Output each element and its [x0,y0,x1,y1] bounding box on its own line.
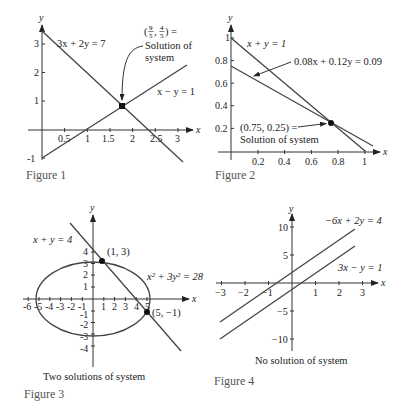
x-tick-label: 2 [112,301,117,312]
y-tick-label: 0.4 [215,100,228,111]
x-tick-label: -4 [45,301,53,312]
figure-caption: Figure 4 [214,374,254,388]
equation-label-1: −6x + 2y = 4 [325,215,383,226]
figure-caption: Figure 3 [24,387,64,401]
annotation-text: system [145,52,174,63]
y-tick-label: 1 [225,32,230,43]
y-tick-label: -2 [80,319,88,330]
y-tick-label: 4 [83,246,88,257]
y-axis-label: y [227,12,233,23]
x-axis-label: x [191,293,197,304]
y-tick-label: 3 [34,38,39,49]
equation-label-1: x + y = 1 [246,38,286,49]
x-tick-label: -2 [67,301,75,312]
figure-3: y x -6 -5 -4 -3 -2 -1 1 2 3 4 5 [23,202,204,401]
equation-label-2: x² + 3y² = 28 [146,271,204,282]
x-tick-label: 2.5 [150,133,163,144]
x-tick-label: −3 [215,287,226,298]
point-label-1: (1, 3) [107,246,130,258]
x-tick-label: 0.8 [332,156,345,167]
x-ticks: −3 −2 −1 1 2 3 [215,281,365,298]
figure-sheet: y x 0.5 1 1.5 2 2.5 3 -1 1 2 3 [0,0,401,411]
y-tick-label: 2 [34,67,39,78]
y-tick-label: −10 [272,334,288,345]
x-axis-label: x [380,277,386,288]
figure-1: y x 0.5 1 1.5 2 2.5 3 -1 1 2 3 [26,12,201,182]
x-tick-label: −2 [238,287,249,298]
x-tick-label: 0.6 [305,156,318,167]
solution-point [119,103,125,109]
figure-4: y x −3 −2 −1 1 2 3 10 5 −5 −10 − [214,203,386,388]
x-ticks: 0.2 0.4 0.6 0.8 1 [252,150,367,167]
y-tick-label: 0.8 [215,55,228,66]
y-tick-label: -3 [80,331,88,342]
solution-point [328,120,334,126]
figure-2: y x 0.2 0.4 0.6 0.8 1 0.2 0.4 0.6 0.8 1 [215,12,388,182]
x-tick-label: 3 [360,287,365,298]
x-tick-label: 3 [175,133,180,144]
label-arrow [254,62,291,76]
y-tick-label: 10 [278,222,288,233]
y-axis-label: y [38,12,44,23]
annotation-text: Solution of system [240,134,319,145]
equation-label-1: x + y = 4 [32,234,73,245]
svg-text:) =: ) = [165,26,177,38]
y-axis-label: y [89,202,95,213]
x-tick-label: 0.5 [58,133,71,144]
y-tick-label: 3 [83,258,88,269]
figure-subtitle: No solution of system [255,355,347,366]
annotation-arrow [298,124,326,128]
x-tick-label: 0.4 [278,156,291,167]
x-tick-label: 1 [313,287,318,298]
x-tick-label: 3 [123,301,128,312]
y-tick-label: 1 [83,281,88,292]
x-axis-label: x [195,124,201,135]
point-label-2: (5, −1) [152,307,181,319]
x-tick-label: -6 [23,301,31,312]
equation-label-2: 3x − y = 1 [337,262,383,273]
y-tick-label: -4 [80,343,88,354]
equation-label-2: 0.08x + 0.12y = 0.09 [294,56,382,67]
y-tick-label: 2 [83,269,88,280]
annotation-arrow [122,46,143,100]
y-tick-label: 0.2 [215,123,228,134]
figure-caption: Figure 2 [215,168,255,182]
svg-text:5: 5 [160,32,164,40]
x-axis-label: x [382,146,388,157]
y-tick-label: -1 [27,153,35,164]
x-tick-label: 1 [101,301,106,312]
y-tick-label: −5 [277,306,288,317]
svg-text:4: 4 [160,24,164,32]
svg-text:(: ( [144,26,148,38]
y-tick-label: 0.6 [215,78,228,89]
annotation-text: Solution of [145,40,192,51]
x-tick-label: 1 [362,156,367,167]
x-tick-label: 1 [85,133,90,144]
annotation-text: (0.75, 0.25) = [240,122,298,134]
y-tick-label: 5 [283,250,288,261]
figure-caption: Figure 1 [26,168,66,182]
x-tick-label: 1.5 [102,133,115,144]
x-tick-label: -3 [56,301,64,312]
solution-point-2 [144,309,150,315]
x-tick-label: 0.2 [252,156,265,167]
svg-text:5: 5 [149,32,153,40]
x-tick-label: 2 [130,133,135,144]
svg-text:,: , [154,26,157,37]
solution-point-1 [99,258,105,264]
y-axis-label: y [288,203,294,214]
line-x-minus-y-eq-1 [42,65,187,158]
equation-label-2: x − y = 1 [157,86,195,97]
equation-label-1: 3x + 2y = 7 [57,38,106,49]
y-tick-label: 1 [34,95,39,106]
figure-subtitle: Two solutions of system [43,371,145,382]
x-tick-label: 2 [337,287,342,298]
svg-text:9: 9 [149,24,153,32]
